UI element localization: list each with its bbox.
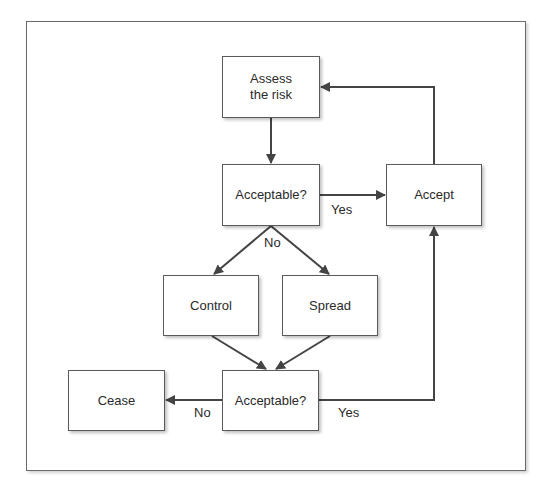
node-spread: Spread <box>282 275 378 336</box>
edge-acceptable1-to-control <box>214 226 271 274</box>
edge-spread-to-acceptable2 <box>276 336 330 369</box>
node-label: Control <box>190 298 232 314</box>
edge-label-no-bottom: No <box>194 406 211 420</box>
node-label: Cease <box>98 393 136 409</box>
node-accept: Accept <box>386 164 482 226</box>
node-acceptable-top: Acceptable? <box>222 164 320 226</box>
node-cease: Cease <box>68 370 165 431</box>
node-assess-the-risk: Assess the risk <box>222 56 320 118</box>
node-label: Acceptable? <box>235 393 307 409</box>
node-control: Control <box>163 275 259 336</box>
edge-label-no-top: No <box>264 236 281 250</box>
node-label: Spread <box>309 298 351 314</box>
node-label: Accept <box>414 187 454 203</box>
node-label: Assess the risk <box>250 71 292 103</box>
node-label: Acceptable? <box>235 187 307 203</box>
node-acceptable-bottom: Acceptable? <box>222 370 319 431</box>
edge-acceptable1-to-spread <box>271 226 329 274</box>
edge-label-yes-bottom: Yes <box>338 406 359 420</box>
edge-control-to-acceptable2 <box>212 336 266 369</box>
edge-label-yes-top: Yes <box>331 203 352 217</box>
edge-accept-to-assess <box>321 87 434 164</box>
